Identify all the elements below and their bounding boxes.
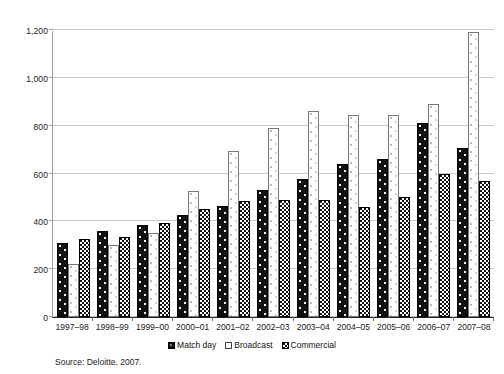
bar-commercial [319,200,330,317]
bar-commercial [399,197,410,317]
bar-match-day [217,206,228,317]
chart-legend: Match dayBroadcastCommercial [0,340,504,350]
y-tick-mark [49,29,53,30]
bar-commercial [199,209,210,317]
legend-item: Broadcast [225,340,272,350]
bar-commercial [79,239,90,317]
bar-match-day [177,215,188,317]
y-axis-label: 1,200 [8,26,48,36]
bar-group [294,31,334,317]
bar-match-day [257,190,268,317]
bar-commercial [439,174,450,318]
bar-match-day [137,225,148,317]
legend-swatch-icon [168,342,175,349]
legend-swatch-icon [225,342,232,349]
bar-match-day [337,164,348,317]
x-axis-label: 2002–03 [253,322,293,332]
bar-broadcast [148,233,159,317]
y-axis-label: 600 [8,170,48,180]
x-axis-label: 2003–04 [293,322,333,332]
bar-match-day [377,159,388,317]
y-axis-label: 0 [8,313,48,323]
bar-broadcast [388,115,399,317]
y-axis-label: 800 [8,122,48,132]
bar-group [414,31,454,317]
x-axis: 1997–981998–991999–002000–012001–022002–… [52,322,494,332]
bar-group [334,31,374,317]
bar-group [173,31,213,317]
y-axis-label: 200 [8,265,48,275]
legend-label: Match day [177,340,216,350]
bar-broadcast [468,32,479,317]
bar-groups [53,31,494,317]
legend-item: Match day [168,340,216,350]
x-axis-label: 1998–99 [92,322,132,332]
bar-commercial [279,200,290,317]
bar-commercial [359,207,370,317]
bar-group [454,31,494,317]
bar-commercial [479,181,490,317]
source-note: Source: Deloitte, 2007. [55,357,141,367]
legend-swatch-icon [282,342,289,349]
x-axis-label: 1999–00 [132,322,172,332]
bar-broadcast [188,191,199,317]
bar-broadcast [348,115,359,317]
legend-item: Commercial [282,340,336,350]
x-axis-label: 2001–02 [213,322,253,332]
plot-area [52,31,494,318]
x-axis-label: 2006–07 [414,322,454,332]
y-axis-label: 400 [8,217,48,227]
gridline [53,29,494,30]
bar-commercial [119,237,130,317]
bar-broadcast [68,264,79,317]
bar-group [53,31,93,317]
bar-group [213,31,253,317]
bar-match-day [57,243,68,317]
bar-broadcast [268,128,279,317]
x-axis-label: 1997–98 [52,322,92,332]
x-axis-label: 2007–08 [454,322,494,332]
bar-group [253,31,293,317]
bar-match-day [97,231,108,317]
bar-commercial [239,201,250,317]
bar-broadcast [308,111,319,317]
bar-broadcast [428,104,439,317]
y-axis-label: 1,000 [8,74,48,84]
bar-broadcast [108,245,119,317]
x-axis-label: 2005–06 [374,322,414,332]
bar-match-day [457,148,468,317]
bar-commercial [159,223,170,317]
bar-group [93,31,133,317]
legend-label: Commercial [291,340,336,350]
x-axis-label: 2004–05 [333,322,373,332]
legend-label: Broadcast [234,340,272,350]
bar-chart: 02004006008001,0001,200 1997–981998–9919… [0,0,504,374]
bar-broadcast [228,151,239,317]
x-axis-label: 2000–01 [173,322,213,332]
bar-match-day [417,123,428,317]
bar-group [133,31,173,317]
bar-group [374,31,414,317]
bar-match-day [297,179,308,317]
